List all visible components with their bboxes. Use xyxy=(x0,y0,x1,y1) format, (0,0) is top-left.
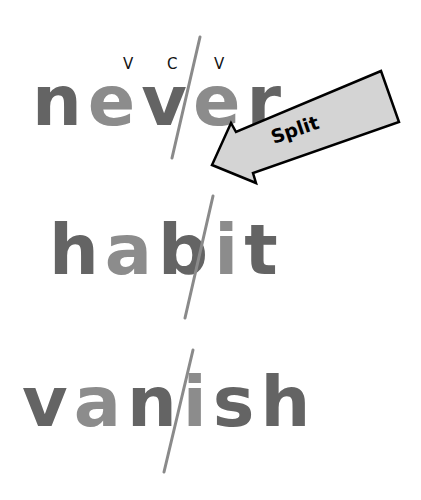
split-line-vanish xyxy=(164,350,193,472)
diagram-overlay: Split xyxy=(0,0,421,500)
split-arrow: Split xyxy=(212,71,399,183)
split-line-never xyxy=(172,37,200,158)
split-line-habit xyxy=(185,196,213,318)
